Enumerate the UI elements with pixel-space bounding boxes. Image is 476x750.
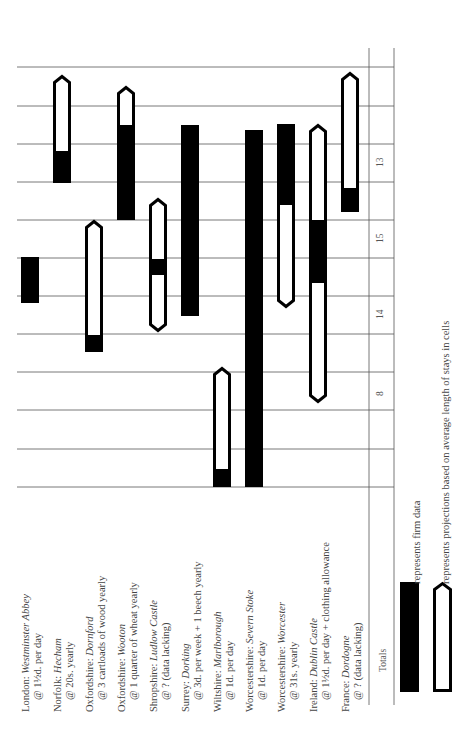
rate: @ 1d. per day	[256, 590, 268, 712]
rate: @ 1 quarter of wheat yearly	[128, 582, 140, 712]
region: Norfolk:	[52, 676, 63, 712]
row-label: Ireland: Dublin Castle@ 1½d. per day + c…	[308, 542, 332, 712]
row-label: Oxfordshire: Dornford@ 3 cartloads of wo…	[84, 576, 108, 712]
place: Wooton	[116, 624, 127, 656]
row-label: Worcestershire: Severn Stoke@ 1d. per da…	[244, 590, 268, 712]
rate: @ ? (data lacking)	[160, 600, 172, 712]
region: Worcestershire:	[244, 646, 255, 712]
place: Worcester	[276, 602, 287, 644]
total-value: 15	[375, 234, 385, 244]
firm-data-bar	[245, 130, 263, 487]
total-value: 8	[375, 391, 385, 396]
firm-data-bar	[85, 335, 103, 352]
projection-bar	[215, 369, 230, 486]
place: Dordogne	[340, 636, 351, 678]
region: London:	[20, 676, 31, 712]
region: Oxfordshire:	[84, 658, 95, 712]
total-value: 13	[375, 158, 385, 168]
firm-data-bar	[277, 124, 295, 202]
row-label: London: Westminster Abbey@ 1½d. per day	[20, 594, 44, 712]
place: Ludlow Castle	[148, 600, 159, 661]
legend-firm-swatch	[400, 582, 419, 692]
firm-data-bar	[53, 151, 71, 183]
rate: @ 3d. per week + 1 beech yearly	[192, 561, 204, 712]
firm-data-bar	[181, 125, 199, 316]
projection-bar	[279, 204, 294, 307]
rate: @ 31s. yearly	[288, 602, 300, 712]
legend-symbols	[400, 582, 451, 692]
rate: @ 3 cartloads of wood yearly	[96, 576, 108, 712]
totals-label: Totals	[378, 649, 388, 672]
place: Dublin Castle	[308, 618, 319, 677]
gridlines	[17, 48, 394, 705]
total-value: 14	[375, 310, 385, 320]
rate: @ 1½d. per day	[32, 594, 44, 712]
region: Shropshire:	[148, 664, 159, 712]
projection-bar	[87, 222, 102, 351]
place: Severn Stoke	[244, 590, 255, 644]
place: Westminster Abbey	[20, 594, 31, 674]
firm-data-bar	[309, 220, 327, 283]
rate: @ ? (data lacking)	[352, 622, 364, 712]
row-label: Surrey: Dorking@ 3d. per week + 1 beech …	[180, 561, 204, 712]
firm-data-bar	[21, 257, 39, 303]
row-label: France: Dordogne@ ? (data lacking)	[340, 622, 364, 712]
legend-projection-text: represents projections based on average …	[440, 321, 451, 584]
rate: @ 20s. yearly	[64, 638, 76, 712]
place: Hecham	[52, 638, 63, 673]
row-label: Oxfordshire: Wooton@ 1 quarter of wheat …	[116, 582, 140, 712]
rate: @ 1d. per day	[224, 612, 236, 712]
row-label: Norfolk: Hecham@ 20s. yearly	[52, 638, 76, 712]
place: Marlborough	[212, 612, 223, 668]
region: Wiltshire:	[212, 670, 223, 712]
region: Worcestershire:	[276, 646, 287, 712]
region: France:	[340, 681, 351, 713]
rate: @ 1½d. per day + clothing allowance	[320, 542, 332, 712]
row-label: Wiltshire: Marlborough@ 1d. per day	[212, 612, 236, 712]
row-label: Worcestershire: Worcester@ 31s. yearly	[276, 602, 300, 712]
bars	[21, 74, 359, 488]
firm-data-bar	[149, 259, 167, 275]
place: Dorking	[180, 643, 191, 678]
row-label: Shropshire: Ludlow Castle@ ? (data lacki…	[148, 600, 172, 712]
region: Surrey:	[180, 681, 191, 712]
firm-data-bar	[341, 188, 359, 212]
firm-data-bar	[117, 125, 135, 220]
firm-data-bar	[213, 469, 231, 487]
region: Ireland:	[308, 679, 319, 712]
legend-projection-swatch	[435, 584, 451, 691]
place: Dornford	[84, 616, 95, 655]
legend-firm-text: represents firm data	[411, 501, 422, 584]
region: Oxfordshire:	[116, 658, 127, 712]
